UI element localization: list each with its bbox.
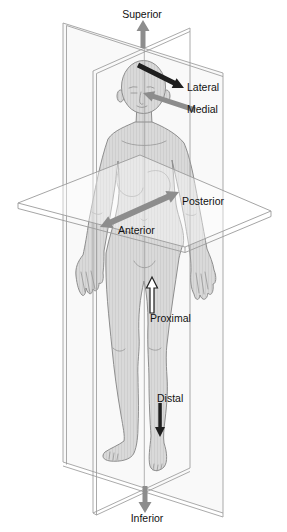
anatomy-directions-diagram: Superior Lateral Medial Posterior Anteri… (0, 0, 287, 532)
medial-label: Medial (187, 103, 218, 115)
lateral-label: Lateral (187, 81, 219, 93)
inferior-label: Inferior (131, 512, 164, 524)
superior-label: Superior (122, 8, 162, 20)
anterior-label: Anterior (118, 224, 155, 236)
proximal-label: Proximal (150, 312, 191, 324)
posterior-label: Posterior (182, 195, 225, 207)
distal-label: Distal (157, 392, 183, 404)
